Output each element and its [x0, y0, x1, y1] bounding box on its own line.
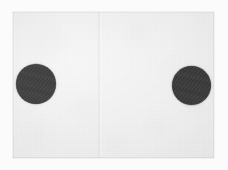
paper-sheet [13, 12, 214, 158]
scanned-image-canvas: Scanned sheet with two printed dots left… [0, 0, 228, 170]
left-dot-ink-texture [16, 64, 56, 104]
right-dot-ink-texture [172, 66, 211, 105]
fold-crease-line [97, 12, 102, 158]
right-dot-mark [172, 66, 211, 105]
left-dot-mark [16, 64, 56, 104]
